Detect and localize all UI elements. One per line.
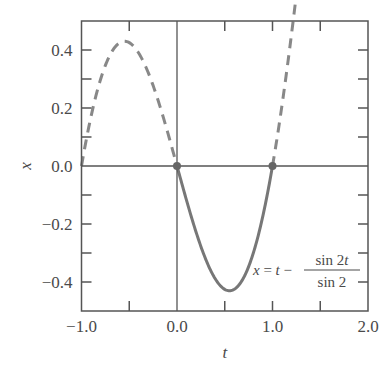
y-axis-label: x bbox=[16, 162, 35, 171]
x-tick-label: 1.0 bbox=[262, 317, 283, 336]
y-tick-label: 0.2 bbox=[51, 99, 72, 118]
x-tick-label: −1.0 bbox=[66, 317, 97, 336]
equation-denominator: sin 2 bbox=[318, 274, 347, 290]
y-tick-label: −0.4 bbox=[42, 273, 73, 292]
equation-numerator: sin 2t bbox=[316, 252, 350, 268]
x-axis-label: t bbox=[222, 343, 228, 362]
equation-annotation: x = t − sin 2t sin 2 bbox=[252, 252, 360, 290]
dashed-curve bbox=[82, 41, 178, 166]
y-tick-label: 0.4 bbox=[51, 41, 73, 60]
equation-lhs: x = t − bbox=[252, 262, 292, 278]
y-tick-label: −0.2 bbox=[42, 215, 73, 234]
y-tick-label: 0.0 bbox=[51, 157, 72, 176]
boundary-point bbox=[173, 162, 181, 170]
curve-layer bbox=[82, 0, 369, 291]
boundary-point bbox=[269, 162, 277, 170]
chart: −0.4−0.20.00.20.4−1.00.01.02.0 t x x = t… bbox=[0, 0, 390, 373]
tick-labels: −0.4−0.20.00.20.4−1.00.01.02.0 bbox=[42, 41, 379, 336]
x-tick-label: 2.0 bbox=[357, 317, 378, 336]
x-tick-label: 0.0 bbox=[166, 317, 187, 336]
